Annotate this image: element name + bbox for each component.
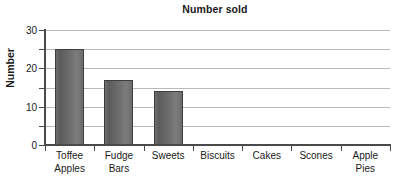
gridline [45, 49, 390, 50]
x-axis-category-label: FudgeBars [94, 150, 143, 175]
x-axis-category-label-line: Scones [291, 150, 340, 163]
x-axis-category-label-line: Toffee [45, 150, 94, 163]
gridline [45, 30, 390, 31]
y-axis-tick [39, 68, 44, 69]
bar [55, 49, 84, 145]
x-axis-category-label: ToffeeApples [45, 150, 94, 175]
y-axis-tick [39, 126, 44, 127]
x-axis-tick [45, 146, 46, 151]
y-axis-tick [39, 30, 44, 31]
bar [154, 91, 183, 145]
y-axis-tick-labels: 0102030 [0, 0, 37, 181]
x-axis-tick [242, 146, 243, 151]
x-axis-category-label: ApplePies [341, 150, 390, 175]
bar [104, 80, 133, 145]
x-axis-category-label: Sweets [144, 150, 193, 163]
y-axis-tick-label: 20 [7, 63, 37, 74]
x-axis-category-label-line: Cakes [242, 150, 291, 163]
x-axis-category-label-line: Pies [341, 163, 390, 176]
gridline [45, 88, 390, 89]
plot-area [45, 30, 390, 145]
chart-title: Number sold [0, 3, 398, 15]
x-axis-category-label-line: Bars [94, 163, 143, 176]
y-axis-tick [39, 145, 44, 146]
y-axis-tick [39, 49, 44, 50]
y-axis-tick-label: 10 [7, 101, 37, 112]
x-axis-tick [341, 146, 342, 151]
y-axis-tick [39, 107, 44, 108]
y-axis-tick-label: 0 [7, 140, 37, 151]
x-axis-category-label-line: Biscuits [193, 150, 242, 163]
bar-chart: Number sold Number 0102030 ToffeeApplesF… [0, 0, 398, 181]
x-axis-category-label: Scones [291, 150, 340, 163]
x-axis-line [44, 144, 391, 146]
x-axis-tick [193, 146, 194, 151]
x-axis-tick [144, 146, 145, 151]
x-axis-category-label: Cakes [242, 150, 291, 163]
y-axis-line [44, 29, 46, 146]
x-axis-tick [390, 146, 391, 151]
x-axis-category-label-line: Apple [341, 150, 390, 163]
gridline [45, 68, 390, 69]
x-axis-tick [291, 146, 292, 151]
x-axis-category-labels: ToffeeApplesFudgeBarsSweetsBiscuitsCakes… [45, 150, 390, 181]
x-axis-category-label-line: Fudge [94, 150, 143, 163]
gridline [45, 107, 390, 108]
y-axis-tick-label: 30 [7, 25, 37, 36]
y-axis-tick [39, 88, 44, 89]
x-axis-tick [94, 146, 95, 151]
x-axis-category-label: Biscuits [193, 150, 242, 163]
x-axis-category-label-line: Sweets [144, 150, 193, 163]
x-axis-category-label-line: Apples [45, 163, 94, 176]
gridline [45, 126, 390, 127]
